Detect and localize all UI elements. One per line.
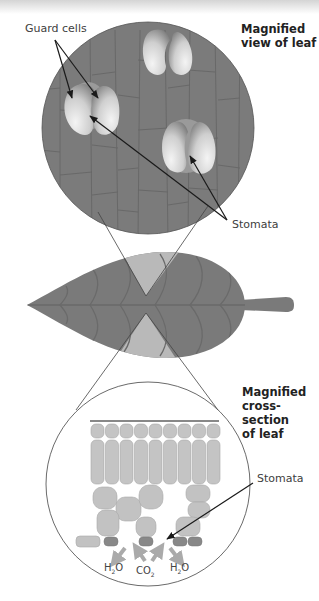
- label-guard-cells: Guard cells: [25, 22, 87, 35]
- chem-symbol: H: [104, 562, 112, 573]
- title-cross-section: Magnified cross-section of leaf: [242, 385, 319, 441]
- stoma-right: [162, 119, 216, 174]
- magnified-cross-section: [46, 382, 253, 586]
- title-line: cross-section: [242, 399, 319, 427]
- label-stomata-bottom: Stomata: [257, 472, 304, 485]
- leaf-diagram: [0, 0, 319, 601]
- chem-symbol: O: [115, 562, 123, 573]
- leaf-stem: [240, 297, 294, 312]
- magnified-surface-view: [40, 22, 254, 240]
- label-stomata-top: Stomata: [232, 218, 279, 231]
- label-h2o-right: H2O: [170, 562, 189, 575]
- title-magnified-view: Magnified view of leaf: [241, 22, 316, 50]
- label-h2o-left: H2O: [104, 562, 123, 575]
- chem-subscript: 2: [151, 571, 155, 578]
- palisade-layer: [91, 424, 220, 484]
- title-line: Magnified: [242, 385, 319, 399]
- title-line: view of leaf: [241, 36, 316, 50]
- chem-symbol: O: [181, 562, 189, 573]
- whole-leaf: [27, 210, 294, 395]
- title-line: Magnified: [241, 22, 316, 36]
- chem-symbol: CO: [136, 565, 151, 576]
- title-line: of leaf: [242, 427, 319, 441]
- chem-symbol: H: [170, 562, 178, 573]
- label-co2: CO2: [136, 565, 155, 578]
